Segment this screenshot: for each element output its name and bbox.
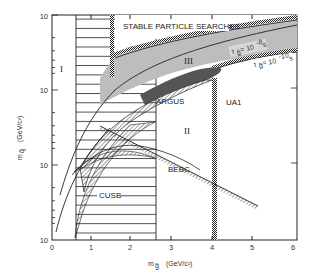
x-tick-5: 5 bbox=[250, 243, 254, 252]
x-tick-6: 6 bbox=[291, 243, 295, 252]
ua1-label: UA1 bbox=[226, 98, 242, 107]
x-axis-symbol: m bbox=[148, 260, 154, 267]
ua1-bar bbox=[212, 78, 217, 240]
x-axis-title: m g̃ (GeV/c²) bbox=[148, 260, 192, 270]
bebc-label: BEBC bbox=[168, 165, 190, 174]
y-tick-1: 10 bbox=[40, 161, 48, 170]
x-tick-1: 1 bbox=[89, 243, 93, 252]
y-axis-title: m q̃ (GeV/c²) bbox=[16, 116, 26, 160]
susy-exclusion-chart: 0 1 2 3 4 5 6 10 10 10 10 m g̃ (GeV/ bbox=[0, 0, 310, 280]
y-axis-units: (GeV/c²) bbox=[16, 116, 24, 142]
x-tick-2: 2 bbox=[128, 243, 132, 252]
x-tick-3: 3 bbox=[169, 243, 173, 252]
vertical-bar-top bbox=[110, 15, 114, 77]
x-axis-sub: g̃ bbox=[155, 262, 159, 270]
stable-particle-searches-label: STABLE PARTICLE SEARCHES bbox=[123, 22, 240, 31]
region-iii-label: III bbox=[184, 56, 193, 66]
region-ii-label: II bbox=[184, 126, 190, 136]
region-i-label: I bbox=[60, 64, 63, 74]
y-axis-sub: q̃ bbox=[18, 149, 26, 153]
cusb-label: CUSB bbox=[99, 191, 121, 200]
x-tick-0: 0 bbox=[50, 243, 54, 252]
x-axis-units: (GeV/c²) bbox=[166, 260, 192, 268]
argus-label: ARGUS bbox=[156, 97, 184, 106]
x-tick-4: 4 bbox=[210, 243, 214, 252]
y-tick-top: 10 bbox=[40, 12, 48, 21]
y-axis-symbol: m bbox=[16, 154, 23, 160]
y-tick-0: 10 bbox=[40, 236, 48, 245]
y-tick-2: 10 bbox=[40, 86, 48, 95]
